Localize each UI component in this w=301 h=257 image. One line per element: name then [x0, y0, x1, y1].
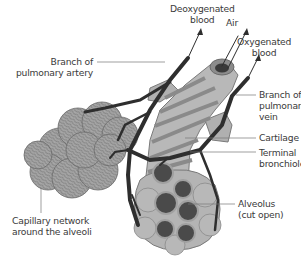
label-alveolus: Alveolus (cut open) — [238, 198, 284, 220]
label-air: Air — [226, 17, 238, 28]
alveolar-sac — [134, 163, 221, 255]
alveoli-diagram: Deoxygenated blood Air Oxygenated blood … — [0, 0, 301, 257]
label-capillary-network: Capillary network around the alveoli — [12, 215, 92, 237]
capillary-network-cluster — [24, 102, 138, 198]
label-branch-pulmonary-vein: Branch of pulmonary vein — [259, 89, 301, 122]
label-oxygenated-blood: Oxygenated blood — [237, 36, 291, 58]
label-cartilage: Cartilage — [259, 132, 299, 143]
label-terminal-bronchiole: Terminal bronchiole — [259, 147, 301, 169]
deoxygenated-blood-arrow — [188, 32, 200, 58]
label-branch-pulmonary-artery: Branch of pulmonary artery — [12, 56, 93, 78]
label-deoxygenated-blood: Deoxygenated blood — [170, 3, 235, 25]
